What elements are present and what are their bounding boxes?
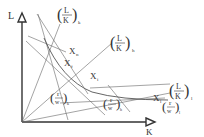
- isocost-h-sub: h: [120, 107, 122, 112]
- line-h: [90, 84, 170, 88]
- l-axis-arrow-icon: [18, 13, 26, 22]
- isocost-l-num: r: [169, 99, 172, 107]
- xn-x: X: [69, 46, 76, 56]
- isocost-label-h: ( r w ) h: [103, 96, 122, 112]
- point-label-xf: X f: [64, 58, 73, 69]
- point-label-xi: X i: [90, 71, 99, 82]
- xi-x: X: [90, 71, 97, 81]
- factor-intensity-diagram: L K ( L K ) k ( L K ) h ( L K ) l X n X …: [0, 0, 204, 137]
- paren-open: (: [110, 34, 115, 52]
- isocost-h: [60, 98, 165, 103]
- xn-sub: n: [76, 52, 79, 57]
- k-axis-label: K: [146, 127, 153, 137]
- ray-label-l: ( L K ) l: [169, 82, 193, 101]
- paren-open: (: [50, 90, 54, 105]
- steep-line-a: [37, 14, 88, 94]
- l-axis-label: L: [8, 10, 14, 21]
- ray-k: [22, 24, 60, 122]
- paren-open: (: [169, 82, 174, 100]
- isocost-k-sub: k: [67, 101, 69, 106]
- isocost-label-k: ( r w ) k: [50, 90, 69, 106]
- xf-x: X: [64, 58, 71, 68]
- ray-l-num: L: [176, 82, 181, 91]
- ray-h: [22, 43, 112, 122]
- isocost-h-den: w: [108, 105, 113, 111]
- point-label-xn: X n: [69, 46, 79, 57]
- k-axis-arrow-icon: [146, 118, 155, 126]
- ray-k-sub: k: [78, 20, 81, 25]
- xl-x: X: [153, 93, 160, 103]
- paren-close: ): [125, 34, 130, 52]
- isocost-l-den: w: [167, 108, 172, 114]
- ray-k-den: K: [63, 16, 69, 25]
- ray-label-k: ( L K ) k: [57, 6, 81, 25]
- ray-label-h: ( L K ) h: [110, 34, 135, 53]
- paren-open: (: [57, 6, 62, 24]
- ray-l-sub: l: [191, 96, 193, 101]
- ray-l: [22, 93, 170, 122]
- ray-k-num: L: [64, 6, 69, 15]
- isocost-h-num: r: [110, 96, 113, 104]
- ray-h-den: K: [116, 44, 122, 53]
- isocost-lines: [26, 14, 170, 120]
- isocost-l-sub: l: [179, 110, 181, 115]
- ray-h-num: L: [117, 34, 122, 43]
- paren-open: (: [103, 96, 107, 111]
- paren-close: ): [184, 82, 189, 100]
- ray-h-sub: h: [132, 48, 135, 53]
- paren-open: (: [162, 99, 166, 114]
- isocost-k-den: w: [55, 99, 60, 105]
- isocost-label-l: ( r w ) l: [162, 99, 181, 115]
- paren-close: ): [72, 6, 77, 24]
- axes: [18, 13, 155, 126]
- xf-sub: f: [71, 64, 73, 69]
- xi-sub: i: [97, 77, 99, 82]
